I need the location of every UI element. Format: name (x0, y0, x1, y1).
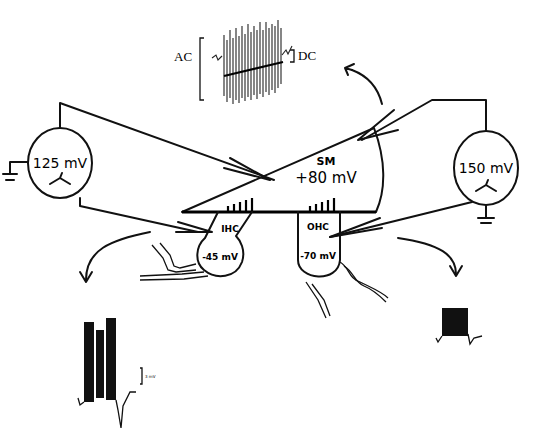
right-upper-pipette-tip (358, 110, 398, 140)
right-electrode-voltage: 150 mV (459, 160, 514, 176)
arrowhead-up (345, 64, 354, 75)
right-lower-electrode-wire (330, 202, 472, 237)
left-electrode-voltage: 125 mV (33, 155, 88, 171)
ohc-stereocilia (310, 198, 334, 212)
curved-arrow-up (352, 70, 382, 104)
scale-bar (140, 368, 142, 384)
ihc-potential: -45 mV (202, 252, 238, 262)
ihc-nerve-fiber-2 (140, 272, 208, 280)
scala-media-potential: +80 mV (295, 169, 357, 187)
ohc-response-trace (436, 308, 482, 344)
cochlea-electrode-diagram: AC DC 125 mV (0, 0, 534, 442)
scale-bar-label: 3 mV (145, 374, 156, 379)
ac-bracket (200, 38, 204, 100)
curved-arrow-right-down (398, 238, 456, 274)
ohc-nerve-fiber (340, 262, 388, 298)
scala-media-label: SM (317, 155, 336, 168)
ground-icon (3, 174, 17, 180)
ihc-nerve-fiber (152, 243, 196, 272)
ac-label: AC (174, 49, 192, 64)
scala-media: SM +80 mV (182, 128, 383, 212)
dc-label: DC (298, 48, 316, 63)
amplifier-symbol-icon (50, 173, 70, 184)
ohc-potential: -70 mV (300, 251, 336, 261)
ihc-stereocilia (228, 198, 252, 212)
right-electrode: 150 mV (330, 100, 518, 237)
top-response-trace: AC DC (174, 20, 316, 104)
left-lower-electrode-wire (80, 198, 198, 232)
right-lower-pipette-tip (330, 218, 382, 237)
ohc-label: OHC (307, 222, 329, 232)
ground-wire (10, 162, 28, 174)
ground-icon (478, 205, 494, 223)
curved-arrow-left-down (86, 232, 150, 280)
dc-bracket (290, 50, 294, 62)
amplifier-symbol-icon (476, 180, 496, 191)
outer-hair-cell: OHC -70 mV (298, 212, 388, 318)
ihc-response-trace: 3 mV (78, 318, 156, 428)
ihc-label: IHC (221, 224, 239, 234)
